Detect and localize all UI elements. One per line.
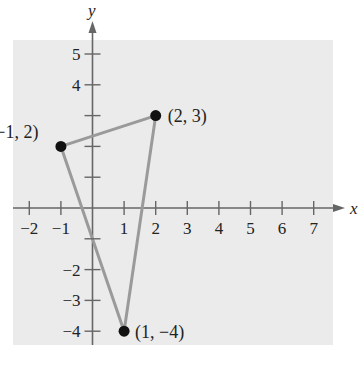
x-tick-label: 1 [120,219,129,238]
y-axis-label: y [86,1,96,20]
y-tick-label: −4 [62,322,81,341]
x-axis-label: x [349,199,358,218]
y-tick-label: 5 [72,45,81,64]
y-tick-label: −2 [62,261,80,280]
x-tick-label: 4 [215,219,224,238]
x-tick-label: 7 [309,219,318,238]
plot-panel [13,40,333,345]
point-label: (2, 3) [168,106,207,127]
y-axis-arrow-icon [89,21,97,33]
x-tick-label: −1 [52,219,70,238]
x-tick-label: 2 [151,219,160,238]
coordinate-plane: −2−11234567−4−3−245 (−1, 2)(2, 3)(1, −4)… [0,0,364,365]
y-tick-label: 4 [72,76,81,95]
x-axis-arrow-icon [333,204,345,212]
data-point [55,141,66,152]
y-tick-label: −3 [62,291,80,310]
data-point [150,110,161,121]
x-tick-label: 5 [246,219,255,238]
data-point [119,326,130,337]
x-tick-label: 6 [278,219,287,238]
point-label: (−1, 2) [0,122,38,143]
x-tick-label: 3 [183,219,192,238]
point-label: (1, −4) [135,322,184,343]
x-tick-label: −2 [20,219,38,238]
